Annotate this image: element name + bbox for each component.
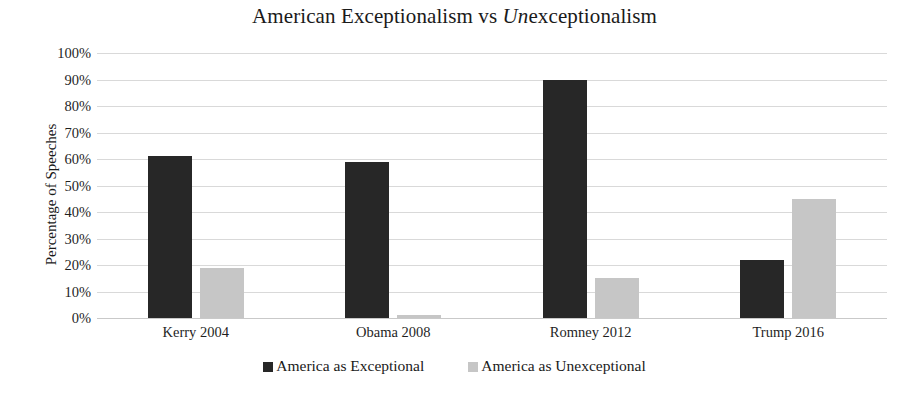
y-axis-tick-10: 10% (64, 283, 91, 300)
bar-group (97, 53, 295, 318)
plot-area (97, 53, 887, 318)
x-axis-tick: Trump 2016 (690, 324, 888, 341)
x-axis-tick: Obama 2008 (295, 324, 493, 341)
y-axis-tick-labels: 0%10%20%30%40%50%60%70%80%90%100% (33, 53, 91, 318)
y-axis-tick-40: 40% (64, 204, 91, 221)
y-axis-tick-50: 50% (64, 177, 91, 194)
x-axis-tick: Romney 2012 (492, 324, 690, 341)
legend-item[interactable]: America as Unexceptional (468, 357, 645, 375)
legend-label: America as Unexceptional (481, 357, 645, 375)
bar-groups (97, 53, 887, 318)
y-axis-tick-0: 0% (72, 310, 91, 327)
gridline-0 (97, 318, 887, 319)
y-axis-tick-70: 70% (64, 124, 91, 141)
bar (397, 315, 441, 318)
bar (148, 156, 192, 318)
y-axis-tick-90: 90% (64, 71, 91, 88)
legend-swatch-icon (468, 362, 478, 372)
legend-swatch-icon (263, 362, 273, 372)
legend-label: America as Exceptional (276, 357, 424, 375)
chart-title-suffix: exceptionalism (528, 4, 657, 28)
x-axis-tick-labels: Kerry 2004Obama 2008Romney 2012Trump 201… (97, 324, 887, 341)
y-axis-tick-80: 80% (64, 98, 91, 115)
legend-item[interactable]: America as Exceptional (263, 357, 424, 375)
y-axis-tick-30: 30% (64, 230, 91, 247)
bar (740, 260, 784, 318)
bar (543, 80, 587, 319)
bar-group (690, 53, 888, 318)
bar (345, 162, 389, 318)
chart-title: American Exceptionalism vs Unexceptional… (0, 4, 909, 29)
bar-group (492, 53, 690, 318)
chart-legend: America as ExceptionalAmerica as Unexcep… (0, 357, 909, 375)
y-axis-tick-60: 60% (64, 151, 91, 168)
bar-chart: American Exceptionalism vs Unexceptional… (0, 0, 909, 408)
bar (200, 268, 244, 318)
bar-group (295, 53, 493, 318)
y-axis-tick-20: 20% (64, 257, 91, 274)
bar (595, 278, 639, 318)
chart-title-italic: Un (503, 4, 529, 28)
chart-title-prefix: American Exceptionalism vs (252, 4, 503, 28)
y-axis-tick-100: 100% (57, 45, 91, 62)
bar (792, 199, 836, 318)
x-axis-tick: Kerry 2004 (97, 324, 295, 341)
